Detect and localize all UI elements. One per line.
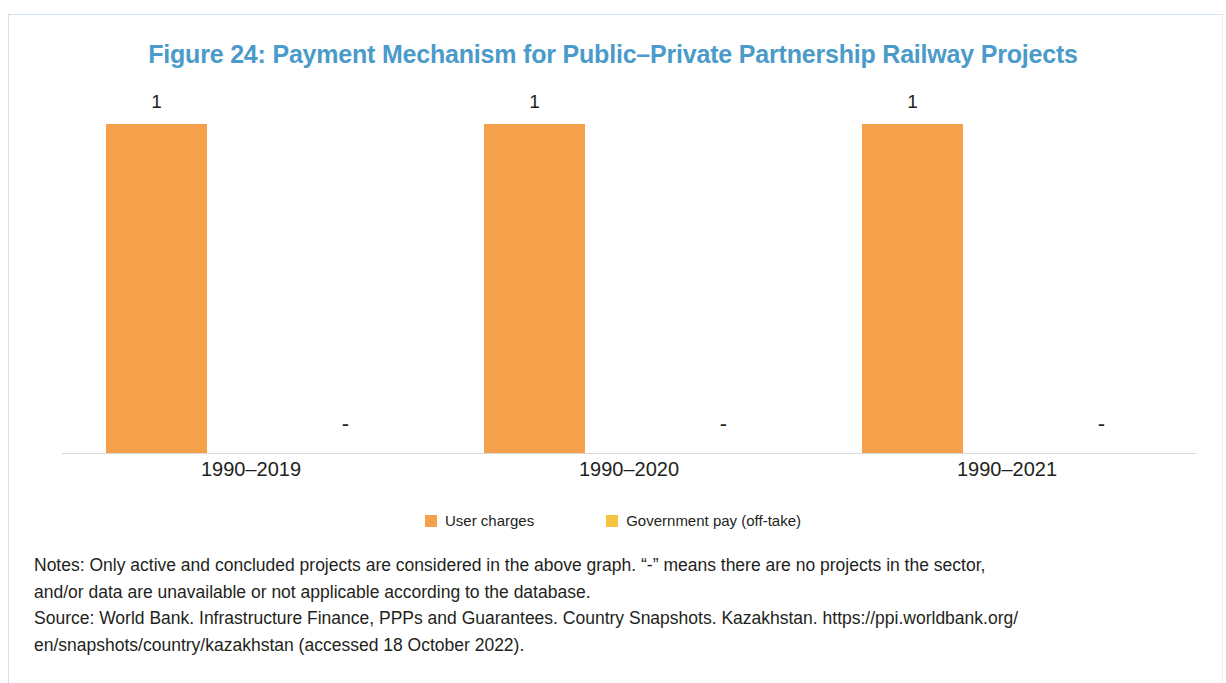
bar-null-dash: - <box>342 413 349 435</box>
x-axis-tick-label: 1990–2020 <box>440 458 818 481</box>
legend-swatch-government-pay <box>606 515 618 527</box>
bar-slot: 1 <box>62 84 251 453</box>
bar-slot: - <box>1007 84 1196 453</box>
bar-value-label: 1 <box>151 92 162 111</box>
legend-item[interactable]: Government pay (off-take) <box>606 512 801 529</box>
footnote-line: Source: World Bank. Infrastructure Finan… <box>34 605 1204 632</box>
bar-rect[interactable] <box>484 124 585 453</box>
x-axis-category-labels: 1990–20191990–20201990–2021 <box>62 458 1196 486</box>
footnote-line: en/snapshots/country/kazakhstan (accesse… <box>34 632 1204 659</box>
bar-rect[interactable] <box>862 124 963 453</box>
x-axis-line <box>62 453 1196 454</box>
bar-slot: 1 <box>440 84 629 453</box>
legend-swatch-user-charges <box>425 515 437 527</box>
footnote-line: and/or data are unavailable or not appli… <box>34 579 1204 606</box>
bar-slot: 1 <box>818 84 1007 453</box>
bar-slot: - <box>251 84 440 453</box>
figure-footnotes: Notes: Only active and concluded project… <box>34 552 1204 658</box>
bar-null-dash: - <box>720 413 727 435</box>
bar-group: 1- <box>818 84 1196 453</box>
x-axis-tick-label: 1990–2021 <box>818 458 1196 481</box>
bar-group: 1- <box>62 84 440 453</box>
footnote-line: Notes: Only active and concluded project… <box>34 552 1204 579</box>
bar-rect[interactable] <box>106 124 207 453</box>
chart-legend: User chargesGovernment pay (off-take) <box>0 512 1226 529</box>
bar-slot: - <box>629 84 818 453</box>
legend-label: Government pay (off-take) <box>626 512 801 529</box>
x-axis-tick-label: 1990–2019 <box>62 458 440 481</box>
chart-plot-area: 1-1-1- <box>62 84 1196 454</box>
legend-item[interactable]: User charges <box>425 512 534 529</box>
bar-value-label: 1 <box>529 92 540 111</box>
bar-group: 1- <box>440 84 818 453</box>
figure-title: Figure 24: Payment Mechanism for Public–… <box>0 40 1226 69</box>
legend-label: User charges <box>445 512 534 529</box>
bar-null-dash: - <box>1098 413 1105 435</box>
bar-value-label: 1 <box>907 92 918 111</box>
